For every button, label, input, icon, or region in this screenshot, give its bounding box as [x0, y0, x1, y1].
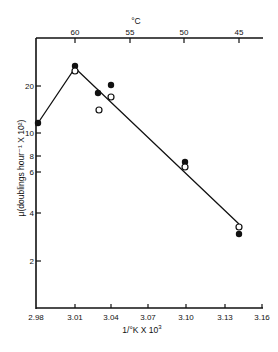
data-point	[108, 82, 114, 88]
series-filled	[35, 63, 242, 237]
x-axis-title: 1/°K X 103	[122, 324, 162, 335]
y-tick-label: 2	[30, 257, 35, 266]
x-tick-labels: 2.98 3.01 3.04 3.07 3.10 3.13 3.16	[28, 313, 270, 322]
data-point	[96, 107, 102, 113]
x-tick-label: 3.13	[217, 313, 233, 322]
top-tick-label: 45	[235, 28, 244, 37]
y-axis-title: μ(doublings hour⁻¹ X 10²)	[16, 119, 26, 216]
top-tick-label: 60	[71, 28, 80, 37]
y-tick-label: 4	[30, 209, 35, 218]
y-tick-labels: 20 10 8 6 4 2	[25, 82, 34, 266]
top-tick-labels: 60 55 50 45	[71, 28, 244, 37]
data-point	[236, 231, 242, 237]
fit-line	[36, 68, 239, 224]
x-tick-label: 3.07	[140, 313, 156, 322]
y-tick-label: 20	[25, 82, 34, 91]
y-tick-label: 10	[25, 129, 34, 138]
data-point	[108, 94, 114, 100]
axes	[36, 38, 263, 309]
x-tick-label: 3.10	[178, 313, 194, 322]
x-tick-label: 3.04	[103, 313, 119, 322]
x-tick-label: 3.01	[67, 313, 83, 322]
top-axis-title: °C	[131, 16, 141, 26]
data-point	[95, 90, 101, 96]
x-tick-label: 3.16	[254, 313, 270, 322]
x-tick-label: 2.98	[28, 313, 44, 322]
y-tick-label: 6	[30, 168, 35, 177]
data-point	[35, 120, 41, 126]
top-tick-label: 55	[126, 28, 135, 37]
chart: 60 55 50 45 °C 2.98 3.01 3.04 3.07 3.10 …	[0, 0, 278, 352]
data-point	[236, 224, 242, 230]
y-tick-label: 8	[30, 152, 35, 161]
data-point	[72, 68, 78, 74]
data-point	[182, 164, 188, 170]
top-tick-label: 50	[180, 28, 189, 37]
